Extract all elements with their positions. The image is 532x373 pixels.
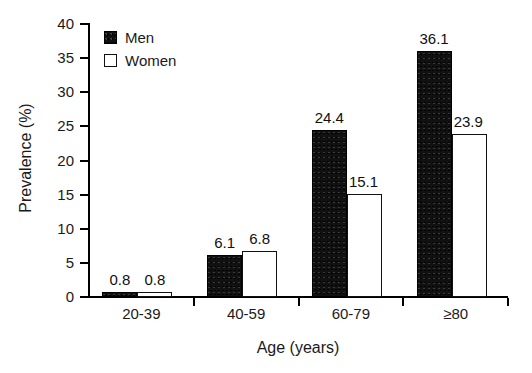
bar-women-2039	[137, 292, 172, 297]
y-axis-title: Prevalence (%)	[18, 78, 34, 238]
legend-label-men: Men	[125, 30, 154, 45]
bar-value-label: 24.4	[306, 110, 353, 125]
bar-value-label: 15.1	[349, 174, 378, 189]
legend-swatch-women-icon	[104, 54, 117, 67]
x-axis-title: Age (years)	[88, 340, 508, 356]
bar-women-80	[452, 134, 487, 297]
chart-legend: Men Women	[104, 26, 176, 72]
bar-value-label: 36.1	[411, 31, 458, 46]
legend-swatch-men-icon	[104, 31, 117, 44]
bar-women-6079	[347, 194, 382, 297]
x-axis-category-label: ≥80	[403, 305, 508, 323]
bar-men-6079	[312, 130, 347, 297]
legend-label-women: Women	[125, 53, 176, 68]
legend-item-women: Women	[104, 49, 176, 72]
bar-men-4059	[207, 255, 242, 297]
plot-area: 0510152025303540 0.80.86.16.824.415.136.…	[0, 0, 532, 373]
bar-value-label: 0.8	[131, 272, 178, 287]
bar-value-label: 23.9	[454, 114, 483, 129]
x-axis-category-label: 60-79	[299, 305, 404, 323]
x-axis-category-label: 40-59	[194, 305, 299, 323]
x-axis-category-label: 20-39	[89, 305, 194, 323]
bar-men-80	[417, 51, 452, 297]
bar-value-label: 6.8	[236, 231, 283, 246]
bar-men-2039	[102, 292, 137, 297]
bar-women-4059	[242, 251, 277, 297]
legend-item-men: Men	[104, 26, 176, 49]
figure-bar-chart: 0510152025303540 0.80.86.16.824.415.136.…	[0, 0, 532, 373]
